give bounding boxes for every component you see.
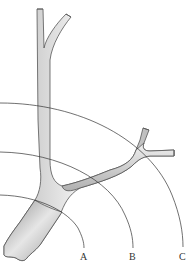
vessel-tree	[4, 9, 174, 261]
trunk-base	[4, 200, 62, 261]
vessel-diagram	[0, 0, 190, 270]
arc-label-b: B	[129, 251, 136, 262]
arc-label-a: A	[80, 251, 87, 262]
lateral-branch	[62, 143, 174, 191]
arc-label-c: C	[179, 251, 186, 262]
